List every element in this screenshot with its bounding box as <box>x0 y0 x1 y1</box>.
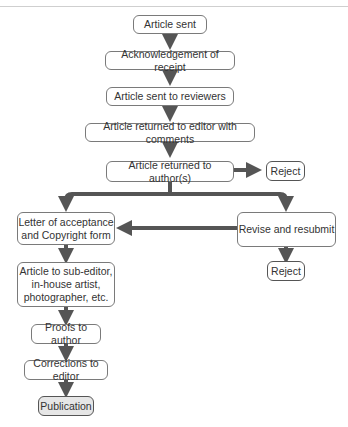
node-sub-editor: Article to sub-editor, in-house artist, … <box>17 262 115 307</box>
node-revise-resubmit: Revise and resubmit <box>237 212 336 247</box>
node-returned-to-editor: Article returned to editor with comments <box>85 123 255 142</box>
node-sent-to-reviewers: Article sent to reviewers <box>106 87 234 106</box>
node-reject-1: Reject <box>266 161 305 181</box>
node-publication: Publication <box>38 396 94 416</box>
node-returned-to-author: Article returned to author(s) <box>106 161 234 182</box>
node-acknowledgement: Acknowledgement of receipt <box>105 51 235 70</box>
node-article-sent: Article sent <box>133 15 207 34</box>
node-proofs: Proofs to author <box>31 324 101 344</box>
node-corrections: Corrections to editor <box>24 360 108 380</box>
node-letter-of-acceptance: Letter of acceptance and Copyright form <box>17 212 115 245</box>
node-reject-2: Reject <box>267 261 305 281</box>
